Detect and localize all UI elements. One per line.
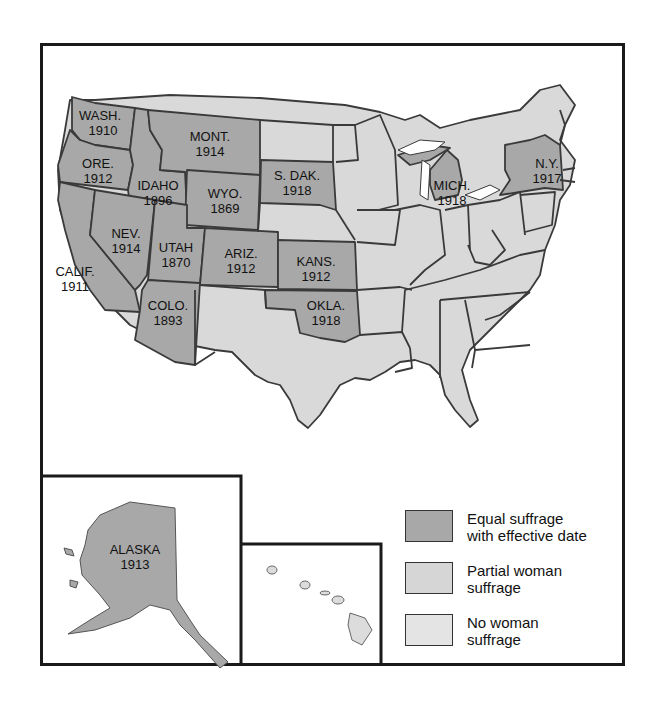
- label-alaska-year: 1913: [121, 557, 150, 572]
- legend-label-partial: Partial woman suffrage: [467, 562, 562, 596]
- label-mont: MONT.: [190, 129, 230, 144]
- label-sdak-year: 1918: [283, 183, 312, 198]
- label-ny-year: 1917: [533, 171, 562, 186]
- legend-item-partial: Partial woman suffrage: [405, 562, 625, 598]
- alaska-island-2: [70, 580, 78, 588]
- alaska-island: [64, 548, 74, 556]
- legend-swatch-none: [405, 614, 453, 646]
- label-wyo-year: 1869: [211, 201, 240, 216]
- label-okla: OKLA.: [307, 298, 345, 313]
- state-alaska: [68, 502, 228, 668]
- legend-item-none: No woman suffrage: [405, 614, 625, 650]
- legend: Equal suffrage with effective date Parti…: [405, 510, 625, 666]
- label-wash: WASH.: [79, 108, 121, 123]
- legend-swatch-partial: [405, 562, 453, 594]
- label-colo: ARIZ.: [224, 246, 257, 261]
- label-utah: UTAH: [159, 240, 193, 255]
- label-alaska: ALASKA: [110, 542, 161, 557]
- label-idaho: IDAHO: [137, 178, 178, 193]
- legend-label-equal: Equal suffrage with effective date: [467, 510, 587, 544]
- label-wash-year: 1910: [89, 123, 118, 138]
- label-calif-year: 1911: [61, 279, 89, 294]
- label-mich: MICH.: [434, 178, 471, 193]
- label-sdak: S. DAK.: [274, 168, 320, 183]
- label-utah-year: 1870: [162, 255, 191, 270]
- label-okla-year: 1918: [312, 313, 341, 328]
- label-calif: CALIF.: [55, 264, 94, 279]
- label-ariz-year: 1893: [154, 313, 183, 328]
- label-mich-year: 1918: [438, 193, 467, 208]
- label-idaho-year: 1896: [144, 193, 173, 208]
- legend-item-equal: Equal suffrage with effective date: [405, 510, 625, 546]
- legend-swatch-equal: [405, 510, 453, 542]
- label-nev: NEV.: [111, 226, 140, 241]
- label-kans: KANS.: [296, 254, 335, 269]
- label-nev-year: 1914: [112, 241, 141, 256]
- label-wyo: WYO.: [208, 186, 243, 201]
- label-ore-year: 1912: [84, 171, 113, 186]
- legend-label-none: No woman suffrage: [467, 614, 539, 648]
- label-colo-year: 1912: [227, 261, 256, 276]
- label-ore: ORE.: [82, 156, 114, 171]
- hawaii-inset-frame: [241, 544, 381, 666]
- label-ariz: COLO.: [148, 298, 188, 313]
- label-kans-year: 1912: [302, 269, 331, 284]
- lake-michigan: [420, 160, 430, 200]
- hawaii-islands: [267, 566, 372, 645]
- label-ny: N.Y.: [535, 156, 559, 171]
- label-mont-year: 1914: [196, 144, 225, 159]
